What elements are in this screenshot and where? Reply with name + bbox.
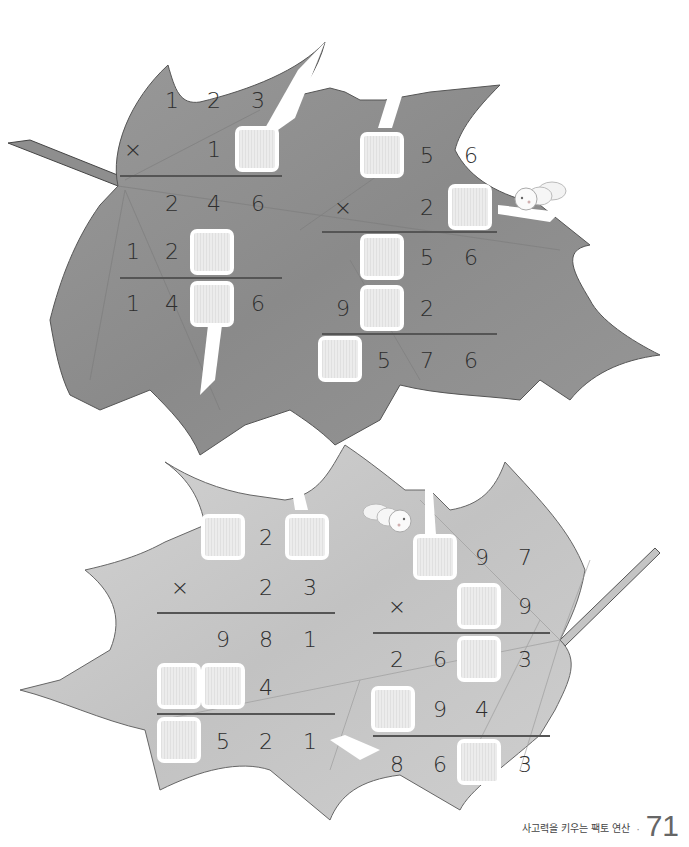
- digit: 2: [259, 577, 273, 599]
- digit: 4: [475, 699, 489, 721]
- digit: 4: [207, 193, 221, 215]
- answer-box[interactable]: [457, 636, 501, 682]
- digit: 5: [216, 731, 230, 753]
- answer-box[interactable]: [371, 686, 415, 732]
- digit: 1: [165, 90, 179, 112]
- digit: 1: [303, 731, 317, 753]
- digit: 5: [377, 350, 391, 372]
- answer-box[interactable]: [190, 229, 234, 275]
- sum-line: [322, 231, 497, 233]
- digit: 3: [518, 754, 532, 776]
- multiply-sign: ×: [388, 596, 406, 618]
- answer-box[interactable]: [360, 234, 404, 280]
- digit: 6: [464, 247, 478, 269]
- digit: 4: [259, 677, 273, 699]
- digit: 4: [165, 293, 179, 315]
- answer-box[interactable]: [157, 663, 201, 709]
- sum-line: [120, 175, 282, 177]
- answer-box[interactable]: [360, 132, 404, 178]
- multiply-sign: ×: [334, 197, 352, 219]
- top-maple-leaf-illustration: [0, 0, 689, 847]
- sum-line: [373, 632, 550, 634]
- answer-box[interactable]: [457, 739, 501, 785]
- sum-line: [157, 612, 335, 614]
- digit: 3: [518, 649, 532, 671]
- digit: 1: [303, 629, 317, 651]
- page-number: 71: [646, 811, 679, 841]
- digit: 7: [518, 547, 532, 569]
- digit: 2: [207, 90, 221, 112]
- answer-box[interactable]: [360, 285, 404, 331]
- digit: 6: [251, 193, 265, 215]
- digit: 1: [126, 241, 140, 263]
- answer-box[interactable]: [285, 514, 329, 560]
- digit: 9: [518, 596, 532, 618]
- digit: 3: [251, 90, 265, 112]
- digit: 8: [259, 629, 273, 651]
- digit: 9: [475, 547, 489, 569]
- digit: 5: [420, 247, 434, 269]
- book-title: 사고력을 키우는 팩토 연산: [522, 820, 631, 835]
- digit: 6: [433, 649, 447, 671]
- caterpillar-icon: [512, 178, 568, 212]
- digit: 2: [420, 298, 434, 320]
- digit: 5: [420, 145, 434, 167]
- digit: 9: [336, 298, 350, 320]
- multiply-sign: ×: [171, 577, 189, 599]
- answer-box[interactable]: [201, 663, 245, 709]
- digit: 6: [464, 350, 478, 372]
- top-leaf-shape: [50, 42, 660, 455]
- answer-box[interactable]: [318, 336, 362, 382]
- answer-box[interactable]: [201, 514, 245, 560]
- digit: 9: [216, 629, 230, 651]
- digit: 8: [390, 754, 404, 776]
- digit: 1: [126, 293, 140, 315]
- multiply-sign: ×: [124, 139, 142, 161]
- digit: 2: [420, 197, 434, 219]
- digit: 6: [433, 754, 447, 776]
- digit: 6: [464, 145, 478, 167]
- separator-dot: ·: [636, 824, 639, 835]
- digit: 2: [165, 193, 179, 215]
- digit: 2: [259, 527, 273, 549]
- answer-box[interactable]: [457, 583, 501, 629]
- digit: 2: [390, 649, 404, 671]
- sum-line: [120, 277, 282, 279]
- answer-box[interactable]: [235, 126, 279, 172]
- digit: 6: [251, 293, 265, 315]
- digit: 7: [420, 350, 434, 372]
- digit: 9: [433, 699, 447, 721]
- digit: 1: [207, 139, 221, 161]
- answer-box[interactable]: [157, 717, 201, 763]
- digit: 2: [259, 731, 273, 753]
- digit: 3: [303, 577, 317, 599]
- digit: 2: [165, 241, 179, 263]
- sum-line: [373, 735, 550, 737]
- answer-box[interactable]: [190, 281, 234, 327]
- answer-box[interactable]: [413, 534, 457, 580]
- answer-box[interactable]: [448, 184, 492, 230]
- caterpillar-icon: [362, 500, 414, 534]
- page-footer: 사고력을 키우는 팩토 연산 · 71: [522, 811, 679, 841]
- sum-line: [157, 713, 335, 715]
- sum-line: [322, 333, 497, 335]
